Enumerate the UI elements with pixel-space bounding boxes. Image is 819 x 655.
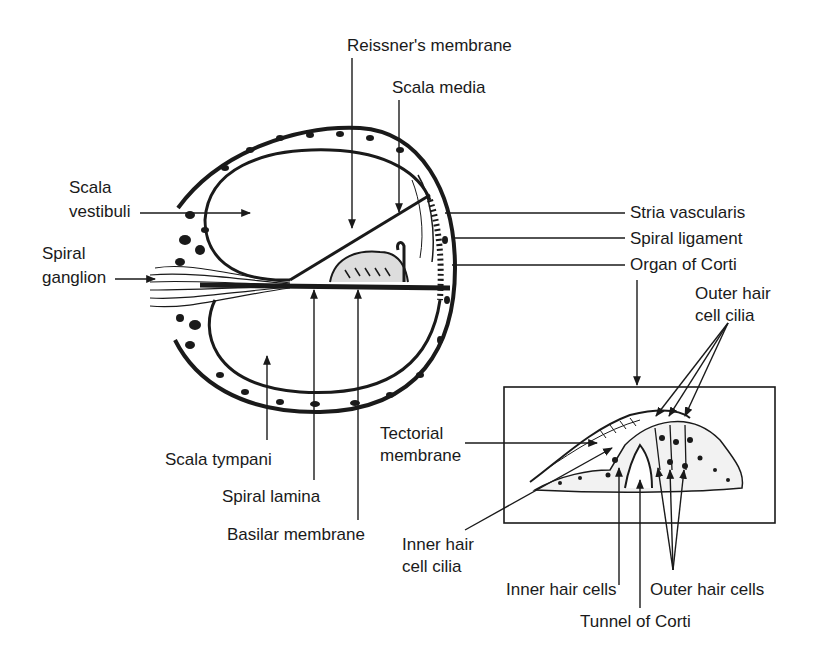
label-inner-hair-cells: Inner hair cells xyxy=(506,580,617,600)
label-inner-hair-cell-cilia-1: Inner hair xyxy=(402,535,474,555)
label-tectorial-membrane-1: Tectorial xyxy=(380,424,443,444)
label-inner-hair-cell-cilia-2: cell cilia xyxy=(402,557,462,577)
label-organ-of-corti: Organ of Corti xyxy=(630,255,737,275)
label-outer-hair-cell-cilia-2: cell cilia xyxy=(695,306,755,326)
label-scala-vestibuli-1: Scala xyxy=(69,178,112,198)
label-scala-media: Scala media xyxy=(392,78,486,98)
scala-tympani-wall xyxy=(209,300,440,393)
label-outer-hair-cell-cilia-1: Outer hair xyxy=(695,284,771,304)
label-tectorial-membrane-2: membrane xyxy=(380,446,461,466)
organ-of-corti-small xyxy=(330,252,408,282)
label-spiral-ganglion-1: Spiral xyxy=(42,244,85,264)
label-tunnel-of-corti: Tunnel of Corti xyxy=(580,612,691,632)
label-spiral-ganglion-2: ganglion xyxy=(42,268,106,288)
outer-bony-wall xyxy=(175,128,455,412)
label-outer-hair-cells: Outer hair cells xyxy=(650,580,764,600)
label-stria-vascularis: Stria vascularis xyxy=(630,203,745,223)
cochlea-cross-section xyxy=(150,128,455,412)
label-spiral-ligament: Spiral ligament xyxy=(630,229,742,249)
label-scala-tympani: Scala tympani xyxy=(165,450,272,470)
label-basilar-membrane: Basilar membrane xyxy=(227,525,365,545)
label-scala-vestibuli-2: vestibuli xyxy=(69,202,130,222)
label-spiral-lamina: Spiral lamina xyxy=(222,487,320,507)
label-reissners-membrane: Reissner's membrane xyxy=(347,36,512,56)
